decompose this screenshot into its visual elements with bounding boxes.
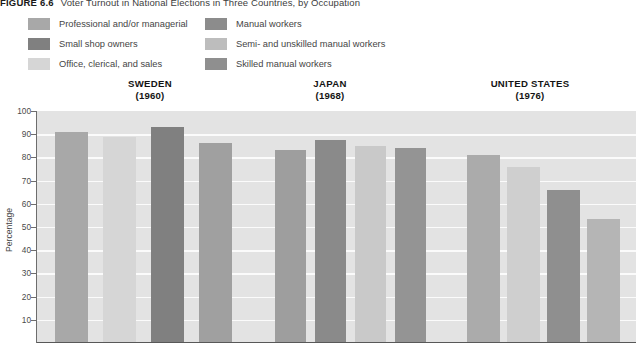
gridline [37, 134, 636, 135]
bar[interactable] [355, 146, 386, 343]
legend-item[interactable]: Small shop owners [28, 34, 188, 54]
legend-item[interactable]: Professional and/or managerial [28, 14, 188, 34]
y-axis-tick-label: 90 [22, 129, 31, 139]
legend-item-label: Office, clerical, and sales [59, 59, 162, 69]
bar[interactable] [275, 150, 306, 343]
plot-area [37, 111, 636, 343]
y-axis-tick-label: 80 [22, 152, 31, 162]
country-header: JAPAN(1968) [280, 78, 380, 101]
figure-number: FIGURE 6.6 [0, 0, 54, 8]
figure-caption: Voter Turnout in National Elections in T… [61, 0, 360, 8]
bar[interactable] [395, 148, 426, 343]
y-axis-tick-label: 20 [22, 292, 31, 302]
y-axis-tick-label: 10 [22, 315, 31, 325]
legend-item[interactable]: Office, clerical, and sales [28, 54, 188, 74]
bar[interactable] [55, 132, 88, 343]
bar[interactable] [547, 190, 580, 343]
bar-chart: Percentage 100908070605040302010 [0, 100, 636, 343]
legend-swatch-office-clerical [28, 58, 50, 70]
legend-swatch-skilled-manual [205, 58, 227, 70]
legend-item[interactable]: Manual workers [205, 14, 385, 34]
y-axis-tick-label: 50 [22, 222, 31, 232]
bar[interactable] [151, 127, 184, 343]
legend-item-label: Semi- and unskilled manual workers [236, 39, 385, 49]
figure-title: FIGURE 6.6Voter Turnout in National Elec… [0, 0, 360, 8]
country-header: UNITED STATES(1976) [450, 78, 610, 101]
legend-swatch-professional [28, 18, 50, 30]
y-axis-ticks: 100908070605040302010 [0, 100, 40, 343]
bar[interactable] [199, 143, 232, 343]
y-axis-tick-label: 70 [22, 176, 31, 186]
y-axis-tick-label: 100 [17, 106, 31, 116]
country-headers: SWEDEN(1960)JAPAN(1968)UNITED STATES(197… [0, 78, 636, 102]
y-axis-tick-label: 40 [22, 245, 31, 255]
legend-item-label: Professional and/or managerial [59, 19, 188, 29]
legend-column-right: Manual workersSemi- and unskilled manual… [205, 14, 385, 74]
country-header: SWEDEN(1960) [90, 78, 210, 101]
y-axis-tick-label: 60 [22, 199, 31, 209]
bar[interactable] [507, 167, 540, 343]
legend-item-label: Small shop owners [59, 39, 138, 49]
bar[interactable] [315, 140, 346, 343]
legend: Professional and/or managerialSmall shop… [28, 14, 628, 74]
country-name: UNITED STATES [450, 78, 610, 90]
bar[interactable] [467, 155, 500, 343]
legend-swatch-manual [205, 18, 227, 30]
legend-item-label: Skilled manual workers [236, 59, 332, 69]
legend-item-label: Manual workers [236, 19, 302, 29]
bar[interactable] [103, 137, 136, 343]
legend-item[interactable]: Skilled manual workers [205, 54, 385, 74]
country-name: JAPAN [280, 78, 380, 90]
legend-swatch-shop-owners [28, 38, 50, 50]
legend-column-left: Professional and/or managerialSmall shop… [28, 14, 188, 74]
legend-swatch-semi-unskilled [205, 38, 227, 50]
bar[interactable] [587, 219, 620, 343]
country-name: SWEDEN [90, 78, 210, 90]
y-axis-tick-label: 30 [22, 268, 31, 278]
legend-item[interactable]: Semi- and unskilled manual workers [205, 34, 385, 54]
